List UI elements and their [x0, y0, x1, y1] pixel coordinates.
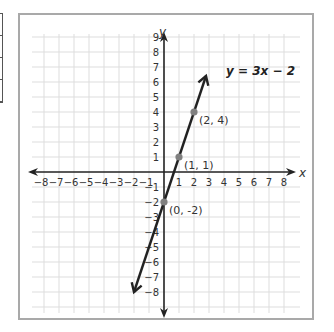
x-tick-label: −7	[49, 177, 64, 188]
x-tick-label: −2	[124, 177, 139, 188]
x-tick-label: 5	[236, 177, 242, 188]
x-tick-label: 4	[221, 177, 227, 188]
data-point	[190, 108, 197, 115]
y-tick-label: 3	[153, 122, 159, 133]
x-tick-label: 1	[176, 177, 182, 188]
x-axis-label: x	[298, 166, 307, 180]
x-tick-label: −3	[109, 177, 124, 188]
y-tick-label: 4	[153, 107, 159, 118]
data-point	[175, 153, 182, 160]
equation-label: y = 3x − 2	[226, 64, 295, 78]
x-tick-label: 2	[191, 177, 197, 188]
x-tick-label: 8	[281, 177, 287, 188]
x-tick-label: 7	[266, 177, 272, 188]
y-tick-label: −8	[144, 287, 159, 298]
point-label: (1, 1)	[184, 159, 214, 172]
y-tick-label: 1	[153, 152, 159, 163]
y-tick-label: 8	[153, 47, 159, 58]
point-label: (0, -2)	[169, 204, 203, 217]
y-tick-label: −2	[144, 197, 159, 208]
point-label: (2, 4)	[199, 114, 229, 127]
x-tick-label: 3	[206, 177, 212, 188]
y-tick-label: 7	[153, 62, 159, 73]
x-tick-label: −5	[79, 177, 94, 188]
y-tick-label: 6	[153, 77, 159, 88]
y-tick-label: 5	[153, 92, 159, 103]
x-tick-label: −4	[94, 177, 109, 188]
x-tick-label: 6	[251, 177, 257, 188]
x-tick-label: −8	[34, 177, 49, 188]
y-tick-label: −6	[144, 257, 159, 268]
y-tick-label: 2	[153, 137, 159, 148]
y-tick-label: −1	[144, 182, 159, 193]
data-point	[160, 198, 167, 205]
coordinate-plane: −8−7−6−5−4−3−2−112345678987654321−1−2−3−…	[0, 0, 334, 332]
y-tick-label: −7	[144, 272, 159, 283]
y-axis-label: y	[158, 25, 167, 39]
x-tick-label: −6	[64, 177, 79, 188]
